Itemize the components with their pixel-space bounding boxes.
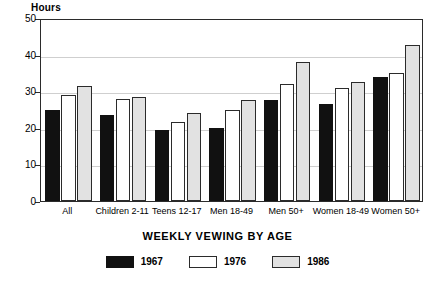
bar-chart-figure: Hours 01020304050 AllChildren 2-11Teens … <box>0 0 435 282</box>
legend-label: 1986 <box>307 257 329 267</box>
white-filled-swatch <box>189 256 217 268</box>
bar-1986-children-2-11 <box>132 97 147 201</box>
x-axis-category-label: Men 18-49 <box>210 206 253 216</box>
bar-1976-all <box>61 95 76 201</box>
bar-1986-men-18-49 <box>241 100 256 201</box>
bar-1967-men-50- <box>264 100 279 201</box>
plot-inner <box>41 20 422 201</box>
chart-legend: 196719761986 <box>0 256 435 268</box>
x-axis-category-label: All <box>62 206 72 216</box>
bar-1976-teens-12-17 <box>171 122 186 201</box>
bar-1967-women-50- <box>373 77 388 201</box>
black-filled-swatch <box>106 256 134 268</box>
bar-1986-all <box>77 86 92 201</box>
bar-1986-teens-12-17 <box>187 113 202 201</box>
y-axis-tick-label: 20 <box>8 124 36 134</box>
bar-1967-men-18-49 <box>209 128 224 201</box>
bar-1967-all <box>45 110 60 202</box>
bar-1986-men-50- <box>296 62 311 201</box>
legend-label: 1976 <box>224 257 246 267</box>
y-axis-tick-label: 50 <box>8 14 36 24</box>
x-axis-category-label: Teens 12-17 <box>152 206 202 216</box>
x-axis-title: WEEKLY VEWING BY AGE <box>0 230 435 242</box>
legend-item-1986: 1986 <box>272 256 329 268</box>
bar-1976-women-50- <box>389 73 404 201</box>
gray-filled-swatch <box>272 256 300 268</box>
bar-1976-men-18-49 <box>225 110 240 202</box>
plot-area <box>40 19 423 202</box>
x-axis-category-label: Women 50+ <box>371 206 420 216</box>
gridline <box>41 57 422 58</box>
bar-1967-women-18-49 <box>319 104 334 201</box>
bar-1986-women-18-49 <box>351 82 366 201</box>
legend-label: 1967 <box>141 257 163 267</box>
legend-item-1967: 1967 <box>106 256 163 268</box>
y-axis-tick-label: 0 <box>8 197 36 207</box>
x-axis-category-label: Men 50+ <box>269 206 304 216</box>
bar-1976-men-50- <box>280 84 295 201</box>
x-axis-category-label: Women 18-49 <box>313 206 369 216</box>
y-axis-tick-label: 40 <box>8 51 36 61</box>
bar-1976-children-2-11 <box>116 99 131 201</box>
bar-1967-teens-12-17 <box>155 130 170 201</box>
y-axis-title: Hours <box>31 2 61 13</box>
y-axis-tick-label: 30 <box>8 87 36 97</box>
legend-item-1976: 1976 <box>189 256 246 268</box>
bar-1967-children-2-11 <box>100 115 115 201</box>
y-axis-tick-label: 10 <box>8 160 36 170</box>
bar-1986-women-50- <box>405 45 420 201</box>
bar-1976-women-18-49 <box>335 88 350 201</box>
x-axis-category-label: Children 2-11 <box>95 206 148 216</box>
